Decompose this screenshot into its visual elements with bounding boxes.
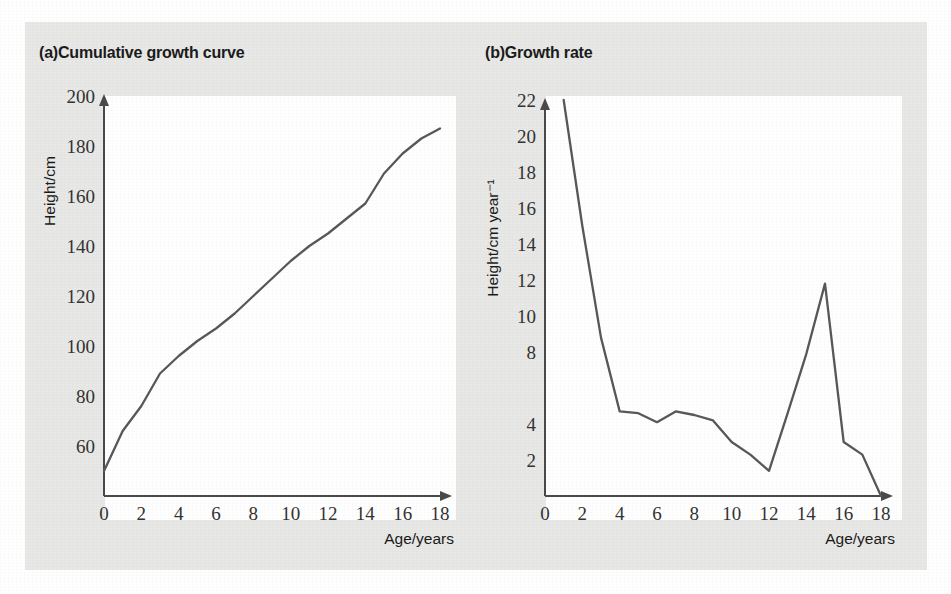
y-tick-label: 80 <box>76 386 95 407</box>
y-tick-label: 8 <box>527 342 537 363</box>
x-tick-label: 18 <box>431 503 450 524</box>
data-series-line <box>104 129 440 472</box>
x-tick-label: 6 <box>652 503 662 524</box>
growth-charts-figure: (a)Cumulative growth curve 6080100120140… <box>0 0 951 594</box>
y-tick-label: 2 <box>527 450 537 471</box>
panel-growth-rate: (b)Growth rate 2481012141618202202468101… <box>476 22 927 570</box>
x-tick-label: 4 <box>615 503 625 524</box>
chart-a-svg: 6080100120140160180200024681012141618Age… <box>25 22 476 570</box>
y-tick-label: 12 <box>517 270 536 291</box>
y-tick-label: 4 <box>527 414 537 435</box>
x-tick-label: 16 <box>834 503 853 524</box>
x-tick-label: 12 <box>319 503 338 524</box>
x-tick-label: 4 <box>174 503 184 524</box>
y-tick-label: 16 <box>517 198 536 219</box>
x-tick-label: 8 <box>249 503 258 524</box>
y-tick-label: 22 <box>517 90 536 111</box>
x-tick-label: 18 <box>872 503 891 524</box>
x-axis-label: Age/years <box>825 530 895 547</box>
y-tick-label: 120 <box>67 286 96 307</box>
y-tick-label: 180 <box>67 136 96 157</box>
x-tick-label: 6 <box>211 503 221 524</box>
y-axis-label: Height/cm year⁻¹ <box>484 179 501 296</box>
x-axis-label: Age/years <box>384 530 454 547</box>
y-tick-label: 140 <box>67 236 96 257</box>
y-axis-arrowhead <box>540 98 550 110</box>
y-tick-label: 18 <box>517 162 536 183</box>
data-series-line <box>564 100 881 496</box>
x-tick-label: 0 <box>99 503 109 524</box>
x-tick-label: 8 <box>690 503 700 524</box>
x-tick-label: 16 <box>393 503 412 524</box>
y-tick-label: 160 <box>67 186 96 207</box>
x-tick-label: 2 <box>578 503 588 524</box>
x-tick-label: 10 <box>281 503 300 524</box>
y-tick-label: 60 <box>76 436 95 457</box>
chart-b-svg: 24810121416182022024681012141618Age/year… <box>476 22 927 570</box>
page-top-margin <box>0 0 951 22</box>
y-axis-arrowhead <box>99 94 109 106</box>
y-axis-label: Height/cm <box>41 156 58 226</box>
y-tick-label: 14 <box>517 234 537 255</box>
y-tick-label: 20 <box>517 126 536 147</box>
y-tick-label: 200 <box>67 86 96 107</box>
x-tick-label: 14 <box>797 503 817 524</box>
x-tick-label: 0 <box>540 503 550 524</box>
y-tick-label: 10 <box>517 306 536 327</box>
x-tick-label: 12 <box>760 503 779 524</box>
panel-cumulative-growth-curve: (a)Cumulative growth curve 6080100120140… <box>25 22 476 570</box>
y-tick-label: 100 <box>67 336 96 357</box>
x-tick-label: 2 <box>137 503 147 524</box>
x-axis-arrowhead <box>881 491 893 501</box>
x-tick-label: 10 <box>722 503 741 524</box>
x-tick-label: 14 <box>356 503 376 524</box>
x-axis-arrowhead <box>440 491 452 501</box>
